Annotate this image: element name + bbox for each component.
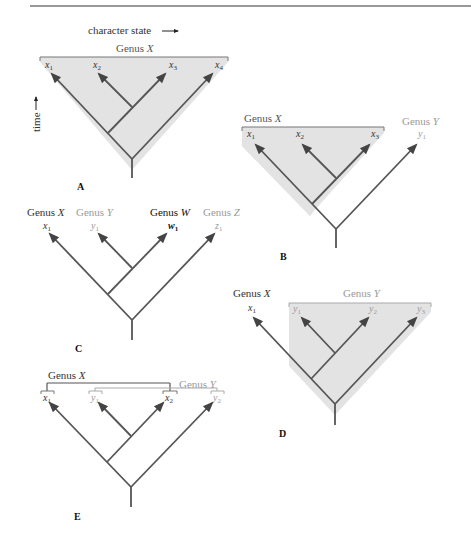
tip-y1: y1	[90, 392, 99, 405]
genus-y-label: Genus Y	[402, 115, 441, 127]
genus-x-label: Genus X	[27, 206, 66, 218]
tip-y1: y1	[417, 128, 426, 141]
panel-label-b: B	[280, 251, 287, 262]
genus-y-shade	[289, 303, 431, 415]
panel-c: Genus X Genus Y Genus W Genus Z x1 y1 w1…	[27, 206, 241, 354]
tip-x1: x1	[247, 302, 256, 315]
tip-y1: y1	[90, 220, 99, 233]
tip-x2: x2	[164, 392, 173, 405]
time-label: time	[30, 112, 42, 132]
genus-w-label: Genus W	[150, 206, 191, 218]
panel-b: Genus X Genus Y x1 x2 x3 y1 B	[242, 112, 441, 262]
tree-c	[50, 234, 214, 340]
genus-x-label: Genus X	[116, 42, 155, 54]
tip-z1: z1	[214, 220, 223, 233]
genus-y-label: Genus Y	[343, 287, 382, 299]
tree-e	[50, 403, 212, 507]
cladogram-figure: character state time Genus X x1 x2 x3 x4…	[0, 0, 471, 540]
time-axis: time	[30, 97, 42, 132]
tip-y2: y2	[212, 392, 221, 405]
genus-x-label: Genus X	[48, 369, 87, 381]
genus-x-label: Genus X	[244, 112, 283, 124]
panel-a: Genus X x1 x2 x3 x4 A	[40, 42, 228, 192]
panel-d: Genus X Genus Y x1 y1 y2 y3 D	[233, 287, 431, 439]
panel-e: Genus X Genus Y x1 y1 x2 y2	[41, 369, 224, 522]
genus-z-label: Genus Z	[203, 206, 241, 218]
panel-label-a: A	[77, 181, 85, 192]
tip-w1: w1	[168, 220, 179, 233]
panel-label-c: C	[75, 343, 82, 354]
genus-x-shade	[40, 57, 228, 170]
genus-y-label: Genus Y	[76, 206, 115, 218]
panel-label-d: D	[279, 428, 286, 439]
genus-x-label: Genus X	[233, 287, 272, 299]
character-state-axis: character state	[88, 24, 178, 36]
character-state-label: character state	[88, 24, 151, 36]
panel-label-e: E	[74, 511, 81, 522]
tip-x1: x1	[42, 220, 51, 233]
